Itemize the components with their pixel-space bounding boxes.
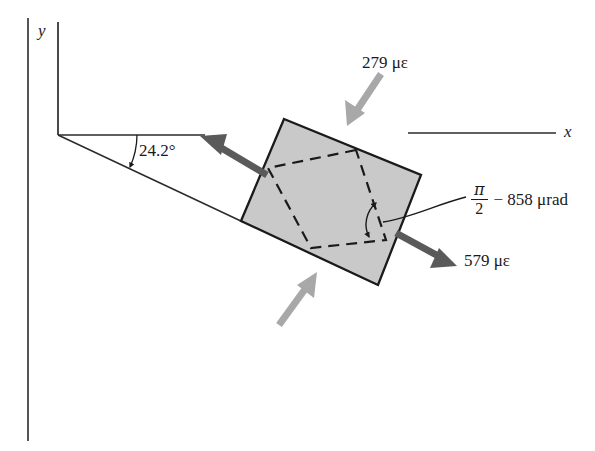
shear-angle-label: π 2 − 858 μrad — [470, 182, 568, 217]
shear-angle-fraction: π 2 — [471, 182, 488, 217]
inclination-angle-arc — [130, 135, 137, 167]
shear-angle-remainder: − 858 μrad — [494, 190, 568, 210]
normal-strain-top-label: 279 με — [362, 54, 408, 71]
strain-diagram-figure: y x 24.2° 279 με 579 με π 2 − 858 μrad — [0, 0, 595, 451]
top-light-arrow — [345, 74, 381, 126]
diagram-canvas — [0, 0, 595, 451]
x-axis-label: x — [564, 123, 572, 140]
normal-strain-right-label: 579 με — [464, 252, 510, 269]
inclination-angle-label: 24.2° — [139, 142, 176, 159]
left-dark-arrow — [200, 134, 267, 175]
y-axis-label: y — [38, 22, 46, 39]
rotated-element-square — [241, 119, 421, 285]
right-dark-arrow — [396, 233, 457, 268]
shear-angle-numerator: π — [471, 182, 488, 199]
bottom-light-arrow — [279, 272, 317, 325]
shear-angle-denominator: 2 — [472, 200, 486, 217]
